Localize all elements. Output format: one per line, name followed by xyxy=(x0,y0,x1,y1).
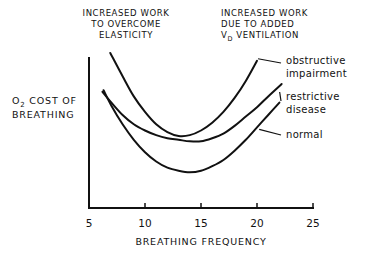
y-axis-title-line-2: BREATHING xyxy=(12,109,74,120)
left-annotation-line-1: INCREASED WORK xyxy=(83,8,170,18)
x-tick-label: 5 xyxy=(86,217,93,229)
left-annotation-line-3: ELASTICITY xyxy=(99,30,153,40)
right-annotation-line-3: VD VENTILATION xyxy=(221,30,299,43)
series-label: normal xyxy=(286,129,323,140)
series-curve-normal xyxy=(104,90,280,172)
leader-line xyxy=(280,92,281,101)
x-tick-label: 15 xyxy=(194,217,207,229)
series-label: restrictive xyxy=(286,91,340,102)
left-annotation-line-2: TO OVERCOME xyxy=(90,19,161,29)
curves xyxy=(102,53,281,172)
right-annotation: INCREASED WORK DUE TO ADDED VD VENTILATI… xyxy=(221,8,308,43)
y-title-rest: COST OF xyxy=(26,95,77,106)
left-annotation: INCREASED WORK TO OVERCOME ELASTICITY xyxy=(83,8,170,40)
right-annotation-line-1: INCREASED WORK xyxy=(221,8,308,18)
right-annotation-line-2: DUE TO ADDED xyxy=(221,19,294,29)
series-labels: obstructiveimpairmentrestrictivediseasen… xyxy=(258,55,347,140)
x-ticks: 510152025 xyxy=(86,203,320,229)
chart: INCREASED WORK TO OVERCOME ELASTICITY IN… xyxy=(0,0,371,258)
series-label: obstructive xyxy=(286,55,346,66)
series-label: impairment xyxy=(286,68,347,79)
y-axis-title: O2 COST OF BREATHING xyxy=(12,95,77,120)
y-axis-title-line-1: O2 COST OF xyxy=(12,95,77,109)
x-tick-label: 20 xyxy=(250,217,263,229)
y-title-o: O xyxy=(12,95,20,106)
series-label: disease xyxy=(286,104,326,115)
vd-rest: VENTILATION xyxy=(233,30,299,40)
x-tick-label: 10 xyxy=(138,217,151,229)
x-tick-label: 25 xyxy=(306,217,319,229)
leader-line xyxy=(258,59,281,63)
leader-line xyxy=(259,129,281,135)
x-axis-title: BREATHING FREQUENCY xyxy=(135,236,266,247)
